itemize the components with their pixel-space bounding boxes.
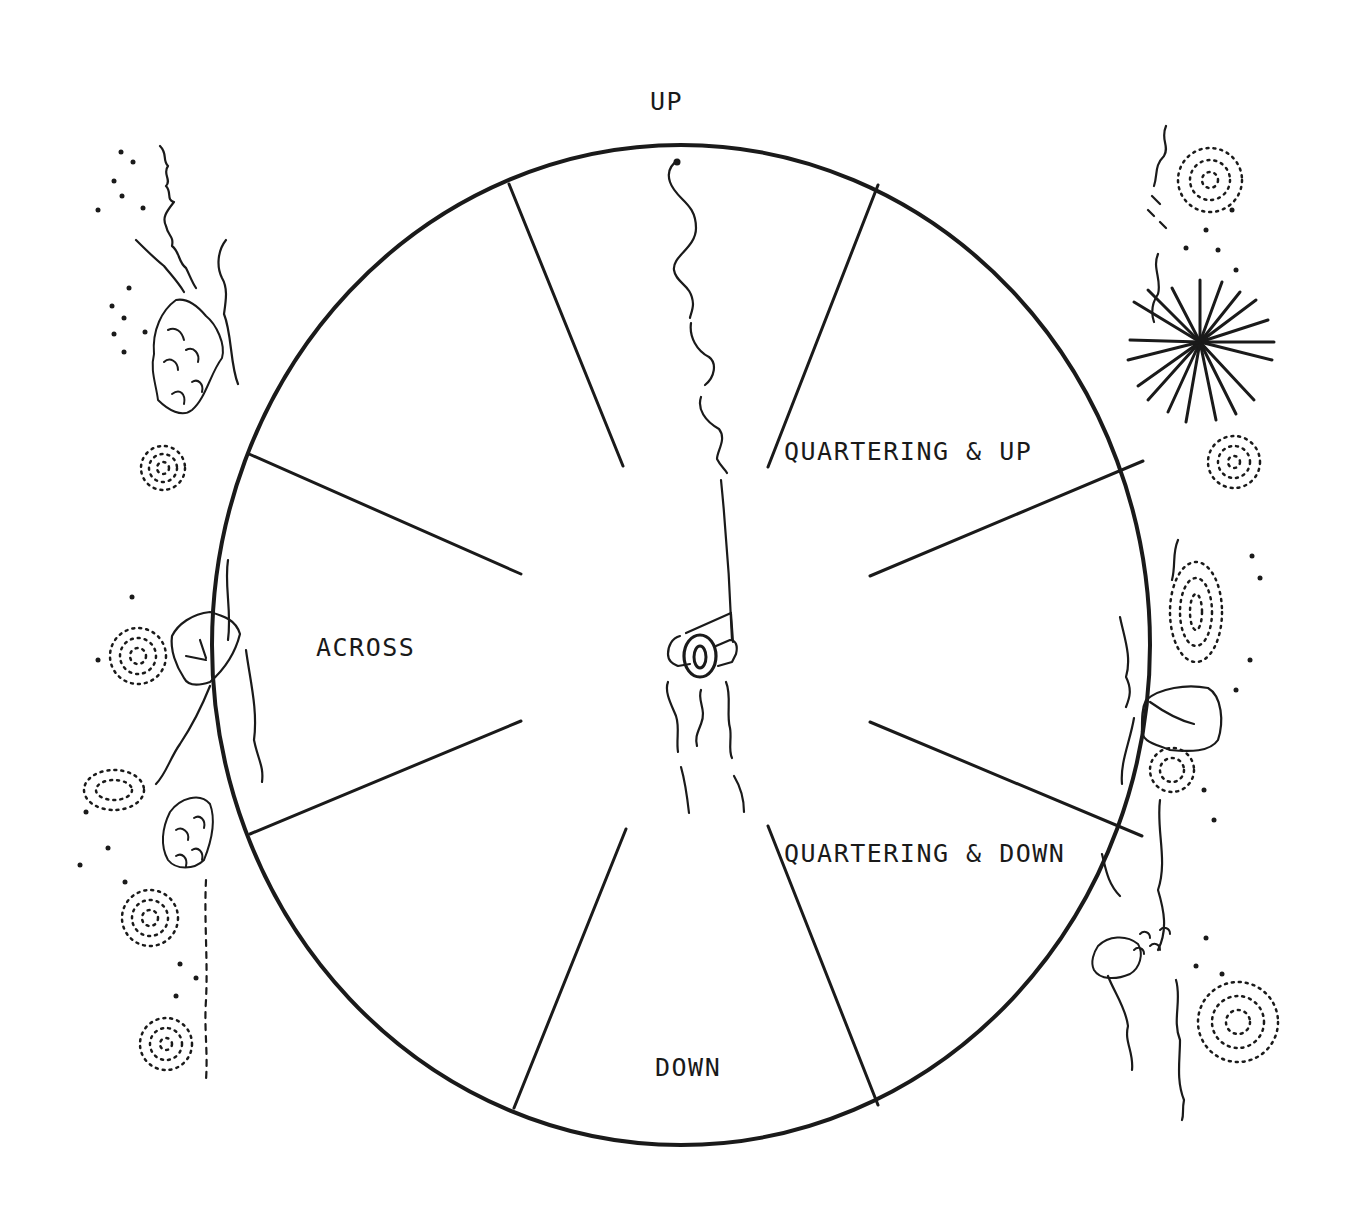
spoke-lower-left <box>514 829 626 1108</box>
spoke-upper-right <box>768 185 878 467</box>
spoke-right-upper <box>870 461 1143 576</box>
shrub-icon <box>1150 148 1278 1062</box>
spoke-left-upper <box>249 454 521 574</box>
spoke-upper-left <box>509 184 623 466</box>
label-quartering-down: QUARTERING & DOWN <box>784 839 1065 868</box>
fly-line-icon <box>669 160 732 640</box>
label-up: UP <box>650 87 683 116</box>
rock-icon <box>1142 687 1221 751</box>
water-wake <box>667 682 744 813</box>
pine-tree-icon <box>1128 280 1274 422</box>
spoke-right-lower <box>870 722 1142 836</box>
left-bank <box>78 146 263 1080</box>
spoke-left-lower <box>250 721 521 834</box>
label-down: DOWN <box>655 1053 721 1082</box>
label-across: ACROSS <box>316 633 415 662</box>
label-quartering-up: QUARTERING & UP <box>784 437 1032 466</box>
shrub-icon <box>84 446 192 1070</box>
angler-icon <box>668 614 737 677</box>
casting-direction-diagram: UP QUARTERING & UP ACROSS QUARTERING & D… <box>0 0 1357 1224</box>
right-bank <box>1092 126 1278 1120</box>
